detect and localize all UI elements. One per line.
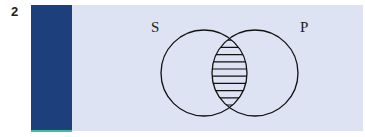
intersection-shading <box>150 33 300 112</box>
set-p-label: P <box>300 19 308 36</box>
venn-diagram <box>0 0 365 137</box>
set-s-circle <box>161 30 247 116</box>
set-p-circle <box>212 30 298 116</box>
set-s-label: S <box>151 19 159 36</box>
